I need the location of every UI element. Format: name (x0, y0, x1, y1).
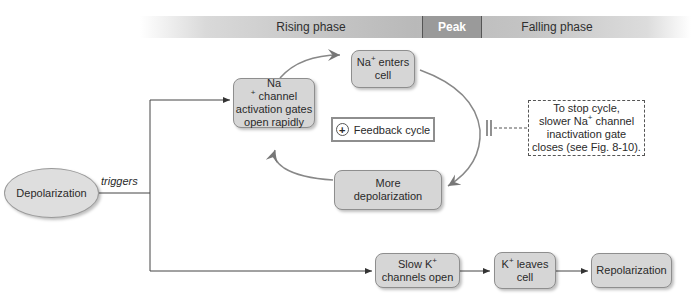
depolarization-node: Depolarization (4, 168, 99, 218)
repolarization-node: Repolarization (591, 253, 672, 288)
na-activation-gates-node: Na+ channel activation gates open rapidl… (233, 78, 315, 128)
na-enters-cell-node: Na+ enters cell (351, 50, 415, 88)
feedback-cycle-label: + Feedback cycle (331, 117, 435, 142)
depolarization-label: Depolarization (16, 187, 86, 199)
slow-k-channels-node: Slow K+ channels open (375, 253, 460, 288)
plus-icon: + (336, 123, 349, 136)
more-depolarization-node: More depolarization (334, 170, 442, 210)
k-leaves-cell-node: K+ leaves cell (494, 252, 556, 289)
triggers-label: triggers (101, 175, 138, 187)
stop-cycle-note: To stop cycle, slower Na+ channel inacti… (528, 100, 645, 156)
